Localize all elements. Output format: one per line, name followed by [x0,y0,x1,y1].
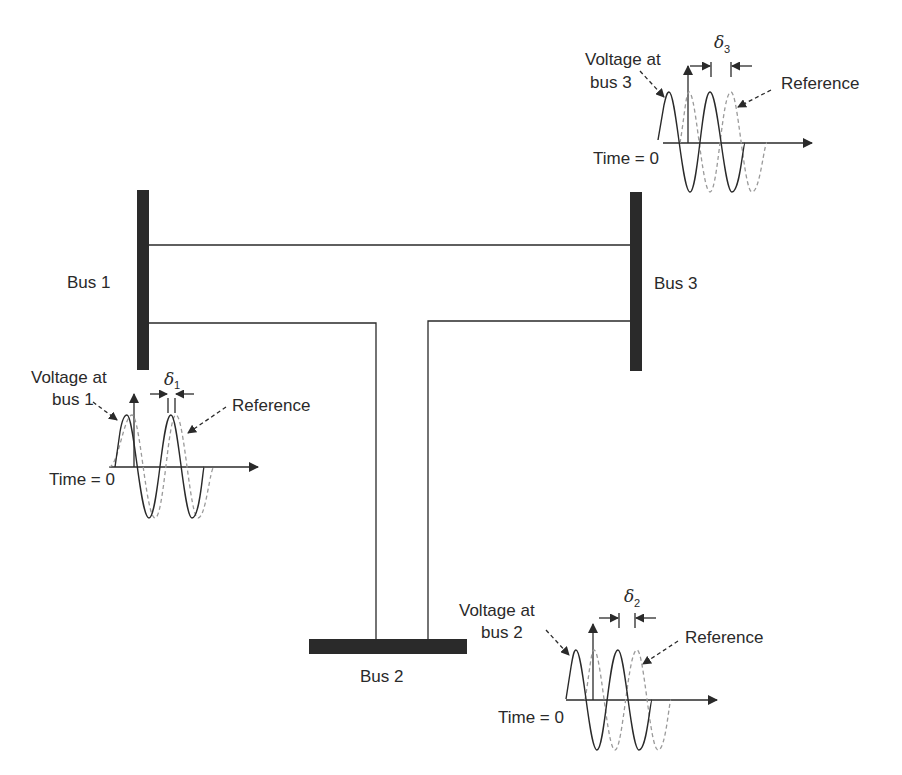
reference-label-bus-3: Reference [781,74,859,93]
reference-pointer-bus-2 [643,641,678,664]
delta-3-subscript: 3 [724,43,730,55]
waveform-bus-3: δ 3 Voltage at bus 3 Reference Time = 0 [585,32,859,192]
reference-pointer-bus-3 [738,90,771,107]
voltage-label-bus-2-line2: bus 2 [481,623,523,642]
waveform-bus-1: δ 1 Voltage at bus 1 Reference Time = 0 [31,368,310,518]
voltage-waveform [658,92,745,192]
transmission-lines [149,245,630,639]
line-bus3-bus2 [428,321,630,639]
bus-1-bar [137,190,149,370]
reference-label-bus-2: Reference [685,628,763,647]
time-zero-label-bus-2: Time = 0 [498,708,564,727]
bus-2-label: Bus 2 [360,667,403,686]
bus-2-bar [309,639,467,654]
voltage-label-bus-3-line2: bus 3 [590,73,632,92]
voltage-pointer-bus-1 [93,402,117,420]
reference-pointer-bus-1 [188,407,226,433]
delta-1-subscript: 1 [174,379,180,391]
bus-3-bar [630,192,642,371]
voltage-label-bus-3-line1: Voltage at [585,50,661,69]
reference-label-bus-1: Reference [232,396,310,415]
voltage-pointer-bus-2 [546,630,569,655]
delta-2-symbol: δ [624,586,634,606]
waveform-bus-2: δ 2 Voltage at bus 2 Reference Time = 0 [459,586,763,750]
time-zero-label-bus-3: Time = 0 [593,149,659,168]
voltage-label-bus-1-line1: Voltage at [31,368,107,387]
bus-1-label: Bus 1 [67,273,110,292]
bus-3-label: Bus 3 [654,274,697,293]
time-zero-label-bus-1: Time = 0 [49,470,115,489]
voltage-label-bus-2-line1: Voltage at [459,601,535,620]
delta-2-subscript: 2 [634,597,640,609]
voltage-label-bus-1-line2: bus 1 [52,390,94,409]
voltage-pointer-bus-3 [640,71,664,97]
reference-waveform [680,92,767,192]
delta-1-symbol: δ [164,369,174,389]
delta-3-symbol: δ [714,32,724,52]
power-system-diagram: Bus 1 Bus 3 Bus 2 δ 1 Voltage at bus 1 R… [0,0,902,775]
